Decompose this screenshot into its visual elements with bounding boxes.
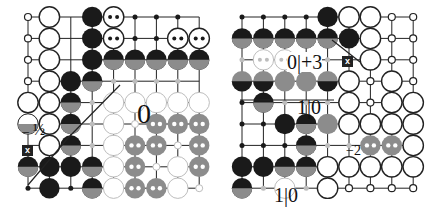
stone-bdot xyxy=(68,186,73,191)
stone-wdot xyxy=(388,14,395,21)
stone-b xyxy=(82,7,102,27)
stone-bg xyxy=(125,50,145,70)
stone-g2 xyxy=(125,178,145,198)
stone-bg xyxy=(61,114,81,134)
stone-wdot xyxy=(410,14,417,21)
stone-bdot xyxy=(304,15,309,20)
stone-gdot xyxy=(325,143,330,148)
stone-bg xyxy=(296,28,316,48)
stone-w xyxy=(382,92,402,112)
stone-g xyxy=(275,71,295,91)
stone-w xyxy=(403,92,423,112)
stone-g2 xyxy=(189,114,209,134)
stone-bdot xyxy=(282,143,287,148)
stone-b xyxy=(61,157,81,177)
stone-w xyxy=(39,92,59,112)
stone-lw xyxy=(103,157,123,177)
left-minus-sign: − xyxy=(22,126,30,140)
stone-bg xyxy=(189,50,209,70)
stone-bg xyxy=(253,92,273,112)
stone-w xyxy=(403,114,423,134)
stone-lw xyxy=(103,92,123,112)
left-half-fraction: ½ xyxy=(33,122,45,138)
stone-b xyxy=(61,71,81,91)
stone-bg xyxy=(82,157,102,177)
stone-lw xyxy=(168,92,188,112)
stone-gdot xyxy=(90,122,95,127)
stone-bdot xyxy=(133,36,138,41)
left-x-marker: x xyxy=(22,145,33,156)
stone-wdot xyxy=(410,185,417,192)
stone-bdot xyxy=(133,15,138,20)
stone-g2 xyxy=(189,135,209,155)
stone-w xyxy=(339,7,359,27)
stone-gdot xyxy=(325,57,330,62)
left-value-zero: 0 xyxy=(137,100,151,128)
stone-bg xyxy=(275,157,295,177)
stone-gdot xyxy=(282,100,287,105)
stone-w xyxy=(403,157,423,177)
stone-bdot xyxy=(282,15,287,20)
stone-g2 xyxy=(125,135,145,155)
stone-lw xyxy=(168,178,188,198)
stone-gdot xyxy=(261,186,266,191)
stone-g2 xyxy=(360,135,380,155)
stone-bg xyxy=(296,157,316,177)
stone-g2 xyxy=(125,157,145,177)
stone-wdot xyxy=(367,185,374,192)
stone-b xyxy=(82,28,102,48)
stone-w xyxy=(382,71,402,91)
stone-bdot xyxy=(261,143,266,148)
stone-bg xyxy=(232,178,252,198)
stone-lwdot xyxy=(196,185,203,192)
stone-bg xyxy=(82,71,102,91)
stone-w xyxy=(382,157,402,177)
stone-bg xyxy=(275,28,295,48)
stone-lwdot xyxy=(153,163,160,170)
stone-w xyxy=(18,92,38,112)
stone-wdot xyxy=(25,56,32,63)
stone-wdot xyxy=(388,56,395,63)
stone-gdot xyxy=(90,100,95,105)
stone-w2 xyxy=(189,28,209,48)
stone-bdot xyxy=(154,36,159,41)
stone-bg xyxy=(146,50,166,70)
stone-bdot xyxy=(240,15,245,20)
stone-b xyxy=(339,28,359,48)
stone-w xyxy=(360,157,380,177)
stone-bdot xyxy=(154,15,159,20)
stone-w xyxy=(339,71,359,91)
stone-bg xyxy=(18,157,38,177)
stone-w xyxy=(403,135,423,155)
stone-gb xyxy=(317,71,337,91)
stone-w2 xyxy=(168,28,188,48)
stone-bg xyxy=(317,28,337,48)
right-value-1-0-top: 1|0 xyxy=(297,97,321,117)
stone-wdot xyxy=(367,99,374,106)
stone-lw2 xyxy=(253,50,273,70)
stone-lwdot xyxy=(174,142,181,149)
stone-gdot xyxy=(111,79,116,84)
go-diagrams xyxy=(0,0,428,219)
stone-wdot xyxy=(410,56,417,63)
stone-w xyxy=(339,114,359,134)
stone-w xyxy=(382,114,402,134)
stone-wdot xyxy=(410,78,417,85)
stone-bg xyxy=(61,92,81,112)
left-go-diagram xyxy=(18,7,210,199)
right-value-1-0-bottom: 1|0 xyxy=(274,185,298,205)
stone-w xyxy=(360,50,380,70)
stone-b xyxy=(82,50,102,70)
stone-gdot xyxy=(133,79,138,84)
stone-g2 xyxy=(189,157,209,177)
right-value-0-plus3: 0|+3 xyxy=(287,52,322,72)
stone-gb xyxy=(232,71,252,91)
stone-w xyxy=(39,135,59,155)
stone-w xyxy=(339,92,359,112)
stone-wdot xyxy=(25,78,32,85)
stone-w2 xyxy=(103,7,123,27)
right-x-marker: x xyxy=(342,56,353,67)
stone-w xyxy=(39,50,59,70)
stone-g2 xyxy=(382,135,402,155)
stone-wdot xyxy=(388,35,395,42)
